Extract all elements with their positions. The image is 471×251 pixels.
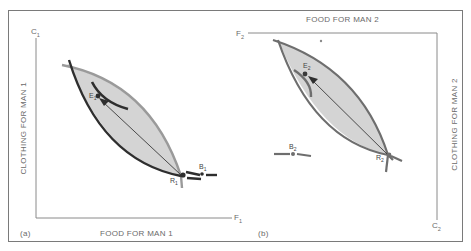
panel-a-b1-dash-1 xyxy=(186,172,200,175)
panel-b-r2-extension xyxy=(386,155,388,172)
panel-b-y-axis-label: CLOTHING FOR MAN 2 xyxy=(450,77,459,173)
panel-a-label-b1: B1 xyxy=(199,163,206,172)
panel-a-x-axis-symbol: F1 xyxy=(234,213,242,224)
panel-b-label-r2: R2 xyxy=(376,154,384,163)
panel-a-y-axis-label: CLOTHING FOR MAN 1 xyxy=(19,85,28,175)
panel-b-lens xyxy=(279,42,388,155)
panel-a-tag: (a) xyxy=(20,229,31,238)
panel-a-b1-dash-2 xyxy=(187,178,201,179)
panel-b-tag: (b) xyxy=(258,229,269,238)
panel-b-label-b2: B2 xyxy=(289,143,296,152)
panel-b-point-r2 xyxy=(387,153,392,158)
panel-b-b2-dash-2 xyxy=(297,154,311,156)
panel-a-point-b1 xyxy=(200,172,204,176)
panel-b-small-dot xyxy=(320,40,322,42)
panel-b-y-axis-symbol: C2 xyxy=(432,221,441,232)
panel-b-label-e2: E2 xyxy=(303,62,310,71)
panel-b-point-b2 xyxy=(291,152,295,156)
panel-a-label-r1: R1 xyxy=(170,177,178,186)
panel-a-graphics xyxy=(36,38,232,218)
panel-b-graphics xyxy=(248,33,437,220)
panel-b-x-axis-label: FOOD FOR MAN 2 xyxy=(306,15,379,24)
panel-a-x-axis-label: FOOD FOR MAN 1 xyxy=(100,229,173,238)
panel-a-point-r1 xyxy=(180,172,185,177)
panel-a-label-e1: E1 xyxy=(89,92,96,101)
panel-b-x-axis-symbol: F2 xyxy=(236,29,244,40)
panel-b-point-e2 xyxy=(303,72,308,77)
panel-a-y-axis-symbol: C1 xyxy=(31,27,40,38)
